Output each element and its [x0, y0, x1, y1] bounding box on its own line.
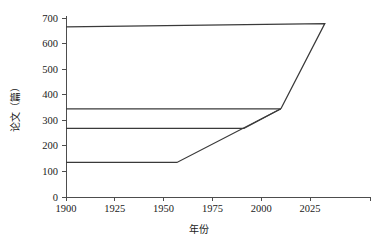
series-line	[66, 24, 325, 109]
data-series-layer	[66, 24, 325, 163]
y-tick-marks	[62, 18, 66, 197]
y-tick-label: 200	[42, 140, 58, 151]
y-tick-label: 400	[42, 89, 58, 100]
y-tick-label: 500	[42, 64, 58, 75]
x-tick-label: 1950	[153, 203, 174, 214]
y-axis-title: 论文（篇）	[9, 82, 21, 132]
x-tick-label: 1975	[202, 203, 223, 214]
x-tick-label: 1925	[104, 203, 125, 214]
x-tick-label: 2000	[251, 203, 272, 214]
y-tick-label: 600	[42, 38, 58, 49]
chart-figure: 0 100 200 300 400 500 600 700 1900 1925 …	[0, 0, 378, 246]
y-tick-label: 300	[42, 115, 58, 126]
y-tick-label: 100	[42, 166, 58, 177]
series-line	[66, 109, 281, 163]
y-tick-label: 0	[53, 192, 58, 203]
y-tick-labels: 0 100 200 300 400 500 600 700	[42, 13, 58, 203]
x-tick-label: 1900	[56, 203, 77, 214]
x-tick-marks	[66, 197, 370, 201]
y-tick-label: 700	[42, 13, 58, 24]
x-tick-label: 2025	[300, 203, 321, 214]
x-axis-title: 年份	[189, 223, 209, 235]
line-chart: 0 100 200 300 400 500 600 700 1900 1925 …	[0, 0, 378, 246]
x-tick-labels: 1900 1925 1950 1975 2000 2025	[56, 203, 321, 214]
